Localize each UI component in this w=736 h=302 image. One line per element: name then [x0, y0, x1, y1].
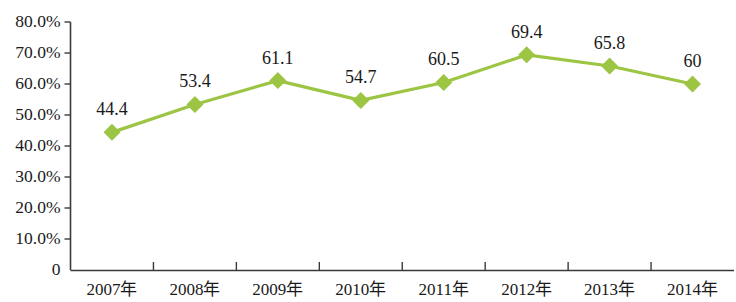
y-axis-tick-label: 40.0% [0, 137, 65, 155]
y-axis-tick-label: 70.0% [0, 44, 65, 62]
x-axis-ticks [153, 262, 651, 270]
y-axis-tick-label: 60.0% [0, 75, 65, 93]
x-axis-tick-label: 2014年 [667, 281, 718, 298]
x-axis-tick-label: 2007年 [86, 281, 137, 298]
data-point-marker [518, 46, 535, 63]
x-axis-tick-label: 2012年 [501, 281, 552, 298]
line-chart-plot [0, 0, 736, 302]
y-axis-tick-label: 30.0% [0, 168, 65, 186]
chart-container: 010.0%20.0%30.0%40.0%50.0%60.0%70.0%80.0… [0, 0, 736, 302]
data-point-markers [103, 46, 701, 141]
data-point-label: 60 [684, 52, 702, 70]
data-point-label: 69.4 [511, 23, 543, 41]
y-axis-tick-label: 80.0% [0, 13, 65, 31]
data-point-marker [435, 74, 452, 91]
data-point-label: 61.1 [262, 49, 294, 67]
data-point-marker [103, 124, 120, 141]
x-axis-tick-label: 2008年 [169, 281, 220, 298]
y-axis-tick-label: 20.0% [0, 199, 65, 217]
x-axis-tick-label: 2010年 [335, 281, 386, 298]
y-axis-tick-label: 0 [0, 261, 65, 279]
data-point-marker [269, 72, 286, 89]
y-axis-tick-label: 50.0% [0, 106, 65, 124]
x-axis-tick-label: 2011年 [419, 281, 469, 298]
data-point-marker [684, 76, 701, 93]
axes-group [71, 22, 735, 271]
data-point-label: 44.4 [96, 100, 128, 118]
data-point-label: 54.7 [345, 68, 377, 86]
data-point-marker [601, 58, 618, 75]
data-point-label: 65.8 [594, 34, 626, 52]
data-point-marker [352, 92, 369, 109]
x-axis-tick-label: 2009年 [252, 281, 303, 298]
y-axis-tick-label: 10.0% [0, 230, 65, 248]
data-point-marker [186, 96, 203, 113]
data-point-label: 60.5 [428, 50, 460, 68]
y-axis-ticks [65, 22, 71, 239]
data-point-label: 53.4 [179, 72, 211, 90]
x-axis-tick-label: 2013年 [584, 281, 635, 298]
